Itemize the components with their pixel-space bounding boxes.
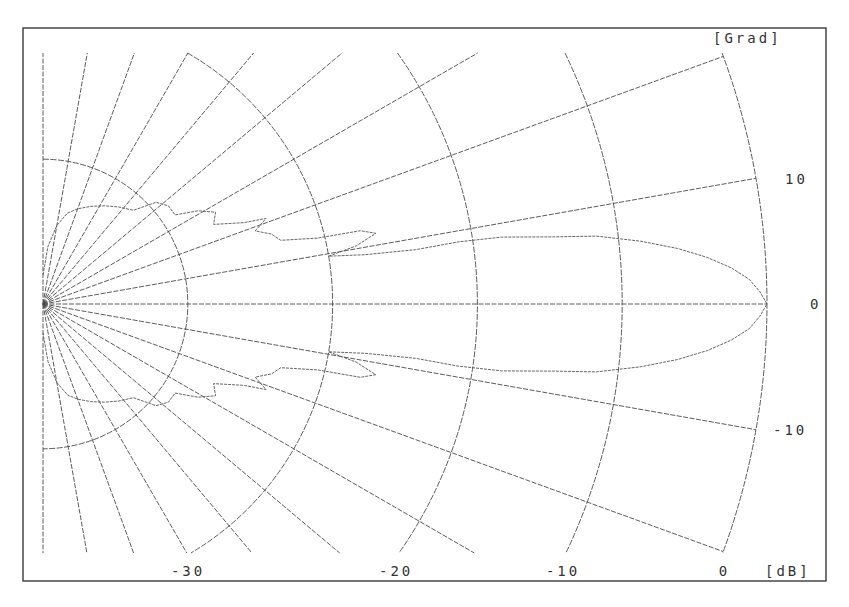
plot-frame	[23, 28, 826, 581]
angle-gridline	[43, 304, 474, 553]
angle-unit-label: [Grad]	[713, 30, 782, 46]
db-circle	[398, 53, 478, 553]
db-circle	[188, 53, 333, 553]
db-circle	[722, 53, 767, 553]
angle-tick-label: 0	[810, 296, 821, 312]
radius-unit-label: [dB]	[765, 563, 811, 579]
angle-gridline	[43, 53, 342, 304]
polar-radiation-chart: 0-10-20-30100-10 [Grad] [dB]	[0, 0, 849, 607]
db-circle	[565, 53, 622, 553]
angle-gridline	[43, 304, 134, 553]
db-tick-label: 0	[719, 563, 730, 579]
db-tick-label: -30	[171, 563, 205, 579]
db-gridcircles	[43, 53, 767, 553]
angle-gridline	[43, 304, 340, 553]
db-tick-label: -20	[379, 563, 413, 579]
angle-gridline	[43, 53, 254, 304]
angle-tick-label: -10	[773, 422, 807, 438]
angle-gridlines	[43, 53, 767, 553]
angle-gridline	[43, 53, 478, 304]
angle-tick-label: 10	[785, 171, 808, 187]
db-tick-label: -10	[546, 563, 580, 579]
angle-gridline	[43, 304, 756, 430]
angle-gridline	[43, 53, 134, 304]
angle-gridline	[43, 178, 756, 304]
angle-gridline	[43, 304, 252, 553]
